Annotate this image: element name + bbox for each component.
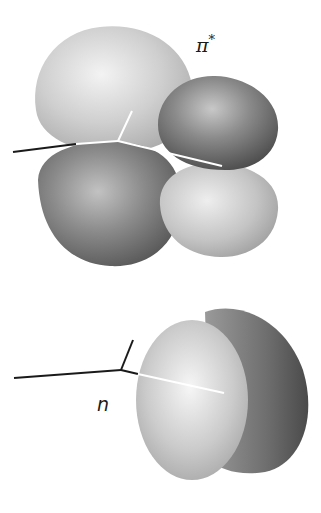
pi-symbol: π: [196, 34, 209, 56]
pi-star-orbital: [13, 26, 278, 266]
bond-to-orbital: [121, 370, 138, 374]
lobe-lower-left-dark: [38, 142, 181, 266]
lobe-front-light: [136, 320, 248, 480]
orbital-diagram: [0, 0, 321, 513]
pi-star-label: π*: [196, 32, 215, 56]
n-label: n: [97, 393, 109, 415]
star-superscript: *: [209, 32, 216, 47]
lobe-lower-right-light: [160, 163, 278, 257]
bond-external: [14, 370, 121, 378]
n-orbital: [14, 309, 308, 480]
bond-up: [121, 340, 133, 370]
